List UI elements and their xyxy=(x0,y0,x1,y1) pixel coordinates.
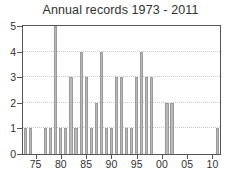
y-tick-label: 4 xyxy=(0,46,16,58)
x-tick-label: 95 xyxy=(125,158,149,170)
bar xyxy=(170,103,173,154)
x-tick-mark xyxy=(212,155,213,159)
chart-container: Annual records 1973 - 2011 012345 758085… xyxy=(0,0,241,182)
chart-title: Annual records 1973 - 2011 xyxy=(0,3,241,17)
bar xyxy=(120,77,123,154)
y-tick-mark xyxy=(17,128,22,129)
bar xyxy=(165,103,168,154)
bar xyxy=(110,128,113,154)
bar xyxy=(105,128,108,154)
y-tick-label: 3 xyxy=(0,71,16,83)
y-tick-mark xyxy=(17,26,22,27)
bar xyxy=(145,77,148,154)
x-tick-label: 90 xyxy=(99,158,123,170)
y-tick-mark xyxy=(17,103,22,104)
x-tick-label: 05 xyxy=(175,158,199,170)
bar-series xyxy=(23,26,220,154)
x-tick-mark xyxy=(137,155,138,159)
bar xyxy=(90,128,93,154)
bar xyxy=(140,52,143,154)
x-tick-label: 75 xyxy=(24,158,48,170)
x-tick-mark xyxy=(36,155,37,159)
bar xyxy=(135,77,138,154)
bar xyxy=(80,52,83,154)
x-tick-label: 10 xyxy=(200,158,224,170)
x-tick-mark xyxy=(111,155,112,159)
y-tick-label: 0 xyxy=(0,148,16,160)
bar xyxy=(85,77,88,154)
y-tick-mark xyxy=(17,77,22,78)
x-tick-label: 00 xyxy=(150,158,174,170)
x-tick-mark xyxy=(86,155,87,159)
bar xyxy=(150,77,153,154)
y-tick-mark xyxy=(17,154,22,155)
x-tick-mark xyxy=(61,155,62,159)
bar xyxy=(49,128,52,154)
x-tick-label: 80 xyxy=(49,158,73,170)
bar xyxy=(130,128,133,154)
x-tick-mark xyxy=(187,155,188,159)
bar xyxy=(54,26,57,154)
bar xyxy=(125,128,128,154)
x-tick-mark xyxy=(162,155,163,159)
bar xyxy=(69,77,72,154)
bar xyxy=(216,128,219,154)
bar xyxy=(115,77,118,154)
y-tick-mark xyxy=(17,52,22,53)
plot-area xyxy=(22,25,221,155)
y-tick-label: 1 xyxy=(0,122,16,134)
bar xyxy=(74,128,77,154)
y-tick-label: 2 xyxy=(0,97,16,109)
x-tick-label: 85 xyxy=(74,158,98,170)
bar xyxy=(64,128,67,154)
bar xyxy=(100,52,103,154)
bar xyxy=(24,128,27,154)
bar xyxy=(59,128,62,154)
y-tick-label: 5 xyxy=(0,20,16,32)
bar xyxy=(44,128,47,154)
bar xyxy=(95,103,98,154)
bar xyxy=(29,128,32,154)
